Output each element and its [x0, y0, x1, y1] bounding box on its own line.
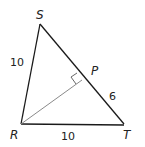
side-length-rs: 10 [10, 56, 24, 69]
side-length-rt: 10 [61, 130, 75, 143]
vertex-label-r: R [10, 128, 18, 142]
altitude-rp [21, 80, 82, 124]
side-rs [21, 24, 40, 124]
vertex-label-t: T [123, 128, 132, 142]
side-st [40, 24, 124, 124]
vertex-label-p: P [91, 64, 99, 78]
side-rt [21, 124, 124, 125]
triangle-diagram: S P R T 10 6 10 [0, 0, 145, 147]
vertex-label-s: S [36, 8, 44, 22]
side-length-pt: 6 [109, 90, 116, 103]
right-angle-marker [71, 73, 77, 84]
